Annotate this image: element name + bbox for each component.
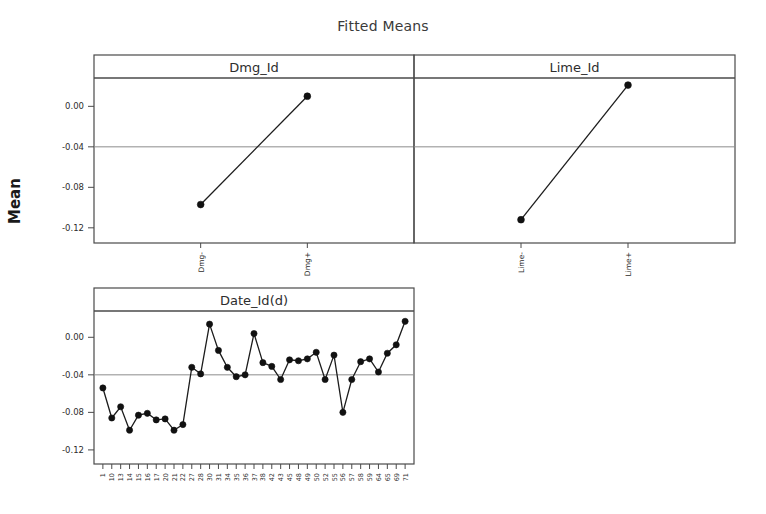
data-point-date-13[interactable]	[215, 347, 221, 353]
data-point-date-16[interactable]	[242, 372, 248, 378]
panel-title-lime: Lime_Id	[549, 60, 599, 75]
x-tick-label-date-20: 43	[277, 473, 285, 481]
x-tick-label-date-13: 31	[215, 473, 223, 481]
x-tick-label-date-4: 15	[135, 473, 143, 481]
x-tick-label-date-16: 36	[242, 473, 250, 481]
x-tick-label-date-27: 56	[339, 473, 347, 481]
data-point-date-19[interactable]	[269, 363, 275, 369]
x-tick-label-date-26: 55	[331, 473, 339, 481]
x-tick-label-date-0: 1	[99, 473, 107, 477]
data-point-date-27[interactable]	[340, 409, 346, 415]
data-point-date-15[interactable]	[233, 374, 239, 380]
x-tick-label-lime-1: Lime+	[624, 252, 633, 276]
x-tick-label-date-23: 49	[304, 473, 312, 481]
x-tick-label-date-8: 21	[171, 473, 179, 481]
data-point-date-2[interactable]	[118, 404, 124, 410]
x-tick-label-lime-0: Lime-	[517, 252, 526, 273]
x-tick-label-date-7: 20	[162, 473, 170, 481]
data-point-date-0[interactable]	[100, 385, 106, 391]
x-tick-label-dmg-1: Dmg+	[303, 252, 312, 276]
panel-frame-date	[94, 288, 414, 464]
y-tick-label-top-0: 0.00	[65, 101, 84, 111]
y-tick-label-top-2: -0.08	[62, 182, 84, 192]
x-tick-label-date-6: 17	[153, 473, 161, 481]
x-tick-label-date-10: 27	[188, 473, 196, 481]
data-point-date-18[interactable]	[260, 360, 266, 366]
fitted-means-figure: Fitted Means Mean 0.00-0.04-0.08-0.12Dmg…	[0, 0, 766, 514]
y-tick-label-top-1: -0.04	[62, 142, 84, 152]
x-tick-label-date-32: 65	[384, 473, 392, 481]
panel-frame-dmg	[94, 55, 414, 243]
data-point-date-17[interactable]	[251, 330, 257, 336]
data-point-date-34[interactable]	[402, 318, 408, 324]
x-tick-label-date-14: 34	[224, 473, 232, 481]
data-point-date-14[interactable]	[224, 364, 230, 370]
data-point-date-4[interactable]	[135, 412, 141, 418]
data-point-date-3[interactable]	[126, 427, 132, 433]
x-tick-label-date-5: 16	[144, 473, 152, 481]
data-point-date-23[interactable]	[304, 356, 310, 362]
y-tick-label-top-3: -0.12	[62, 223, 84, 233]
data-point-date-29[interactable]	[358, 359, 364, 365]
data-point-date-12[interactable]	[206, 321, 212, 327]
data-point-dmg-1[interactable]	[304, 93, 311, 100]
data-point-date-25[interactable]	[322, 376, 328, 382]
x-tick-label-date-18: 38	[259, 473, 267, 481]
x-tick-label-date-29: 58	[357, 473, 365, 481]
data-point-date-20[interactable]	[278, 376, 284, 382]
y-tick-label-bottom-1: -0.04	[62, 370, 84, 380]
x-tick-label-date-12: 30	[206, 473, 214, 481]
data-point-date-8[interactable]	[171, 427, 177, 433]
x-tick-label-date-34: 71	[402, 473, 410, 481]
panel-frame-lime	[414, 55, 735, 243]
data-point-date-26[interactable]	[331, 352, 337, 358]
x-tick-label-date-15: 35	[233, 473, 241, 481]
data-point-lime-1[interactable]	[625, 82, 632, 89]
x-tick-label-date-25: 52	[322, 473, 330, 481]
data-point-date-1[interactable]	[109, 415, 115, 421]
data-point-date-30[interactable]	[366, 356, 372, 362]
x-tick-label-date-17: 37	[251, 473, 259, 481]
y-tick-label-bottom-0: 0.00	[65, 332, 84, 342]
x-tick-label-date-2: 13	[117, 473, 125, 481]
data-point-date-21[interactable]	[286, 357, 292, 363]
panel-title-date: Date_Id(d)	[220, 293, 288, 308]
x-tick-label-date-30: 59	[366, 473, 374, 481]
x-tick-label-date-24: 50	[313, 473, 321, 481]
data-point-date-33[interactable]	[393, 342, 399, 348]
y-tick-label-bottom-2: -0.08	[62, 407, 84, 417]
data-point-date-31[interactable]	[375, 369, 381, 375]
x-tick-label-date-31: 64	[375, 473, 383, 481]
x-tick-label-date-33: 69	[393, 473, 401, 481]
data-point-date-11[interactable]	[198, 371, 204, 377]
data-point-lime-0[interactable]	[518, 216, 525, 223]
x-tick-label-date-21: 45	[286, 473, 294, 481]
y-tick-label-bottom-3: -0.12	[62, 445, 84, 455]
data-point-date-10[interactable]	[189, 364, 195, 370]
x-tick-label-dmg-0: Dmg-	[197, 252, 206, 273]
series-line-lime	[521, 85, 628, 220]
data-point-date-9[interactable]	[180, 421, 186, 427]
x-tick-label-date-3: 14	[126, 473, 134, 481]
panel-title-dmg: Dmg_Id	[229, 60, 279, 75]
x-tick-label-date-1: 10	[108, 473, 116, 481]
data-point-date-24[interactable]	[313, 349, 319, 355]
plot-canvas: 0.00-0.04-0.08-0.12Dmg_IdDmg-Dmg+Lime_Id…	[0, 0, 766, 514]
data-point-date-28[interactable]	[349, 376, 355, 382]
x-tick-label-date-11: 28	[197, 473, 205, 481]
data-point-dmg-0[interactable]	[197, 201, 204, 208]
x-tick-label-date-28: 57	[348, 473, 356, 481]
x-tick-label-date-19: 42	[268, 473, 276, 481]
data-point-date-6[interactable]	[153, 417, 159, 423]
data-point-date-22[interactable]	[295, 358, 301, 364]
data-point-date-7[interactable]	[162, 416, 168, 422]
data-point-date-32[interactable]	[384, 350, 390, 356]
data-point-date-5[interactable]	[144, 410, 150, 416]
x-tick-label-date-9: 22	[179, 473, 187, 481]
x-tick-label-date-22: 48	[295, 473, 303, 481]
series-line-dmg	[201, 96, 308, 204]
